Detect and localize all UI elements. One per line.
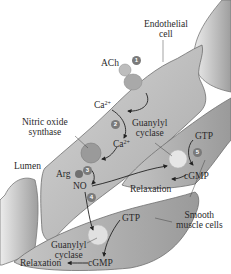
label-relaxation-upper: Relaxation bbox=[130, 184, 171, 194]
step-badge-5: 5 bbox=[193, 148, 202, 157]
label-guanylyl-cyclase-lower: Guanylyl cyclase bbox=[51, 240, 86, 260]
label-gtp-upper: GTP bbox=[195, 131, 213, 141]
label-no: NO bbox=[73, 181, 87, 191]
step-badge-1: 1 bbox=[132, 56, 141, 65]
ach-receptor bbox=[124, 74, 142, 90]
no-signaling-diagram: Endothelial cell ACh Ca2+ Nitric oxide s… bbox=[0, 0, 231, 274]
label-nitric-oxide-synthase: Nitric oxide synthase bbox=[22, 117, 68, 137]
label-cgmp-lower: cGMP bbox=[88, 258, 113, 268]
arginine-molecule bbox=[75, 170, 83, 178]
label-cgmp-upper: cGMP bbox=[184, 171, 209, 181]
guanylyl-cyclase-upper bbox=[169, 150, 187, 168]
label-gtp-lower: GTP bbox=[122, 213, 140, 223]
nitric-oxide-synthase bbox=[81, 143, 101, 163]
label-smooth-muscle-cells: Smooth muscle cells bbox=[176, 210, 223, 230]
label-ca-top: Ca2+ bbox=[94, 100, 111, 110]
label-guanylyl-cyclase-upper: Guanylyl cyclase bbox=[132, 118, 167, 138]
guanylyl-cyclase-lower bbox=[88, 225, 108, 245]
label-relaxation-lower: Relaxation bbox=[20, 258, 61, 268]
label-lumen: Lumen bbox=[14, 161, 41, 171]
label-ach: ACh bbox=[101, 58, 119, 68]
label-endothelial-cell: Endothelial cell bbox=[144, 19, 188, 39]
ach-molecule bbox=[119, 64, 131, 76]
label-arg: Arg bbox=[56, 169, 71, 179]
step-badge-2: 2 bbox=[111, 120, 120, 129]
step-badge-4: 4 bbox=[87, 193, 96, 202]
label-ca-mid: Ca2+ bbox=[113, 139, 130, 149]
step-badge-3: 3 bbox=[83, 166, 92, 175]
